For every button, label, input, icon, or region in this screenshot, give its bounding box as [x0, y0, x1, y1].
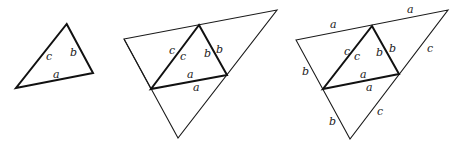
label-a-inner: a — [360, 68, 367, 81]
label-b-left-lower: b — [329, 115, 336, 128]
label-c-outer: c — [169, 44, 175, 57]
label-a-inner: a — [187, 68, 194, 81]
label-a-inner-outer: a — [366, 81, 373, 94]
label-a-outer: a — [193, 81, 200, 94]
label-c-inner-outer: c — [344, 45, 350, 58]
edge-left — [124, 39, 151, 89]
label-b-left-upper: b — [302, 65, 309, 78]
label-a-top-right: a — [407, 3, 414, 16]
figure-triangle-with-reflections: c c b b a a — [124, 10, 277, 138]
label-c-right-upper: c — [427, 42, 433, 55]
figure-single-triangle: c b a — [16, 24, 93, 88]
outer-triangle — [296, 10, 448, 139]
label-b-inner: b — [204, 47, 211, 60]
label-c-inner: c — [354, 50, 360, 63]
label-c-right-lower: c — [377, 105, 383, 118]
figure-full-large-triangle: a a b b c c c c b b a a — [296, 3, 448, 139]
label-b-inner-outer: b — [389, 42, 396, 55]
label-b: b — [70, 46, 77, 59]
label-c: c — [46, 50, 52, 63]
label-c-inner: c — [180, 50, 186, 63]
label-b-inner: b — [376, 46, 383, 59]
triangle-diagram: c b a c c b b a a a a b b c c c c b b a … — [0, 0, 461, 150]
label-a: a — [53, 68, 60, 81]
label-b-outer: b — [216, 43, 223, 56]
label-a-top-left: a — [330, 18, 337, 31]
